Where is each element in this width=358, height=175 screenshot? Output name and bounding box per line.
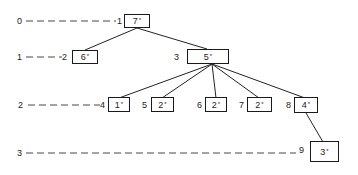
node-value: 6 — [81, 52, 86, 62]
tree-node-1: 7* — [124, 14, 150, 28]
edge-1-3 — [137, 28, 207, 49]
node-mark: * — [121, 101, 123, 107]
node-value: 2 — [158, 100, 163, 110]
node-mark: * — [308, 101, 310, 107]
node-mark: * — [218, 101, 220, 107]
edge-8-9 — [306, 113, 323, 142]
node-value: 2 — [212, 100, 217, 110]
node-id-label: 7 — [239, 101, 244, 110]
node-value: 4 — [302, 100, 307, 110]
tree-node-4: 1* — [108, 97, 130, 112]
node-id-label: 9 — [299, 146, 304, 155]
edge-3-7 — [212, 64, 259, 98]
edge-3-6 — [212, 64, 216, 98]
node-mark: * — [326, 148, 328, 154]
edge-3-4 — [119, 64, 212, 98]
node-value: 5 — [204, 52, 209, 62]
level-label: 1 — [17, 53, 22, 62]
node-value: 2 — [255, 100, 260, 110]
node-mark: * — [210, 53, 212, 59]
node-id-label: 8 — [286, 101, 291, 110]
node-value: 1 — [115, 100, 120, 110]
level-label: 3 — [17, 149, 22, 158]
node-id-label: 5 — [142, 101, 147, 110]
node-mark: * — [164, 101, 166, 107]
node-value: 3 — [320, 147, 325, 157]
node-id-label: 1 — [117, 17, 122, 26]
node-mark: * — [87, 53, 89, 59]
node-id-label: 4 — [100, 101, 105, 110]
edge-3-8 — [212, 64, 305, 98]
tree-edges — [0, 0, 358, 175]
tree-node-6: 2* — [205, 97, 227, 112]
level-label: 2 — [18, 101, 23, 110]
tree-node-7: 2* — [247, 97, 272, 112]
tree-node-9: 3* — [310, 141, 339, 162]
tree-node-8: 4* — [294, 97, 318, 113]
tree-node-5: 2* — [151, 97, 174, 112]
edge-1-2 — [85, 28, 137, 50]
node-id-label: 3 — [174, 53, 179, 62]
tree-node-2: 6* — [72, 50, 98, 64]
level-label: 0 — [17, 17, 22, 26]
node-id-label: 2 — [62, 53, 67, 62]
node-id-label: 6 — [197, 101, 202, 110]
node-value: 7 — [133, 16, 138, 26]
node-mark: * — [261, 101, 263, 107]
tree-node-3: 5* — [187, 49, 229, 64]
node-mark: * — [139, 17, 141, 23]
edge-3-5 — [162, 64, 212, 98]
